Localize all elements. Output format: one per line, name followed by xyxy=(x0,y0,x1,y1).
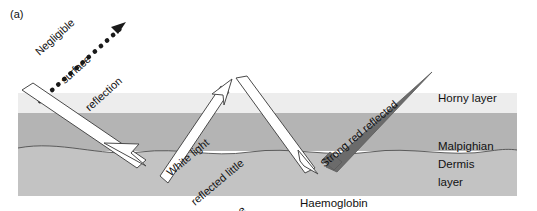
label-negligible-line3: reflection xyxy=(83,72,127,114)
label-white-line1: White light xyxy=(164,127,222,178)
label-malpighian-line2: layer xyxy=(438,176,494,188)
dotted-ray-arrowhead xyxy=(111,22,126,34)
label-haemoglobin: Haemoglobin (green absorbed) xyxy=(300,172,388,211)
panel-label: (a) xyxy=(10,8,23,20)
figure-panel: (a) Negligible surface reflection White … xyxy=(0,0,537,211)
label-dermis-layer: Dermis xyxy=(438,158,474,170)
label-white-line3: change xyxy=(212,185,270,211)
label-haemoglobin-line1: Haemoglobin xyxy=(300,197,388,210)
label-negligible-line2: surface xyxy=(58,44,102,86)
label-negligible-line1: Negligible xyxy=(33,16,77,58)
label-malpighian-line1: Malpighian xyxy=(438,140,494,152)
label-white-line2: reflected little xyxy=(188,156,246,207)
label-horny-layer: Horny layer xyxy=(438,92,497,104)
